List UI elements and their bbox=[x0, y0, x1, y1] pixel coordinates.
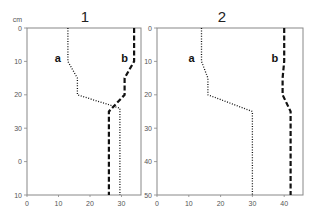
y-tick-label: 10 bbox=[14, 192, 22, 199]
depth-profile-chart: 101020300100102030cmab201020304050010203… bbox=[0, 0, 311, 213]
x-tick-label: 0 bbox=[25, 200, 29, 207]
series-b-line bbox=[283, 28, 291, 195]
x-tick-label: 10 bbox=[185, 200, 193, 207]
y-tick-label: 0 bbox=[18, 25, 22, 32]
y-tick-label: 0 bbox=[148, 25, 152, 32]
series-b-label: b bbox=[271, 52, 278, 64]
y-tick-label: 20 bbox=[14, 91, 22, 98]
x-tick-label: 0 bbox=[155, 200, 159, 207]
series-a-line bbox=[202, 28, 253, 195]
series-b-label: b bbox=[121, 52, 128, 64]
series-a-line bbox=[68, 28, 120, 195]
y-tick-label: 40 bbox=[144, 158, 152, 165]
y-unit-label: cm bbox=[13, 16, 23, 23]
series-a-label: a bbox=[55, 52, 62, 64]
x-tick-label: 40 bbox=[280, 200, 288, 207]
y-tick-label: 50 bbox=[144, 192, 152, 199]
y-tick-label: 20 bbox=[144, 91, 152, 98]
x-tick-label: 30 bbox=[249, 200, 257, 207]
panel-2: 201020304050010203040ab bbox=[144, 8, 303, 207]
y-tick-label: 10 bbox=[14, 58, 22, 65]
y-tick-label: 0 bbox=[18, 158, 22, 165]
x-tick-label: 20 bbox=[86, 200, 94, 207]
plot-frame bbox=[157, 28, 303, 195]
y-tick-label: 30 bbox=[144, 125, 152, 132]
x-tick-label: 10 bbox=[55, 200, 63, 207]
panel-1: 101020300100102030cmab bbox=[13, 8, 141, 207]
x-tick-label: 20 bbox=[217, 200, 225, 207]
panel-title: 2 bbox=[218, 8, 226, 25]
x-tick-label: 30 bbox=[118, 200, 126, 207]
series-a-label: a bbox=[188, 52, 195, 64]
y-tick-label: 30 bbox=[14, 125, 22, 132]
y-tick-label: 10 bbox=[144, 58, 152, 65]
panel-title: 1 bbox=[81, 8, 89, 25]
